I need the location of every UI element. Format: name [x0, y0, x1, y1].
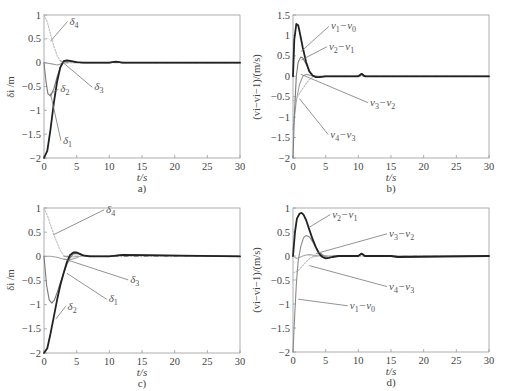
x-tick-label: 30: [484, 161, 495, 172]
panel-label: b): [386, 182, 396, 195]
annotation-leader: [300, 99, 329, 135]
y-axis-label: (vi−vi−1)/(m/s): [251, 54, 263, 120]
annotation-leader: [51, 22, 68, 42]
series-annotation: v2−v1: [329, 40, 354, 55]
y-axis-label: δi /m: [5, 269, 16, 291]
x-tick-label: 20: [169, 161, 180, 172]
y-tick-label: −1.5: [22, 323, 41, 334]
series-line-1: [44, 253, 240, 354]
y-tick-label: −1: [30, 299, 41, 310]
y-tick-label: −2: [30, 153, 41, 164]
y-tick-label: 0: [285, 71, 290, 82]
y-tick-label: 1: [36, 203, 41, 214]
annotation-leader: [309, 266, 387, 287]
series-annotation: δ3: [94, 80, 103, 95]
y-tick-label: −0.5: [271, 91, 290, 102]
y-tick-label: 1.5: [277, 10, 290, 21]
x-tick-label: 30: [235, 161, 246, 172]
y-tick-label: −2: [279, 153, 290, 164]
x-tick-label: 20: [418, 355, 429, 366]
x-tick-label: 0: [41, 356, 46, 367]
panel-a: 051015202530−2−1.5−1−0.500.51t/sa)δi /mδ…: [5, 10, 245, 196]
y-tick-label: −0.5: [22, 275, 41, 286]
panel-d: 051015202530−2−1.5−1−0.500.51t/sd)(vi−vi…: [251, 203, 494, 390]
y-tick-label: −0.5: [271, 275, 290, 286]
annotation-leader: [301, 47, 326, 60]
x-tick-label: 10: [353, 161, 364, 172]
x-tick-label: 5: [323, 355, 328, 366]
annotation-leader: [64, 259, 129, 280]
axes-frame: [293, 15, 489, 158]
panel-label: d): [386, 376, 396, 389]
x-tick-label: 5: [74, 161, 79, 172]
y-tick-label: −0.5: [22, 81, 41, 92]
x-tick-label: 25: [202, 161, 213, 172]
figure-canvas: 051015202530−2−1.5−1−0.500.51t/sa)δi /mδ…: [0, 0, 505, 391]
y-tick-label: −1: [279, 112, 290, 123]
y-tick-label: −2: [30, 348, 41, 359]
series-annotation: v1−v0: [331, 19, 356, 34]
annotation-leader: [67, 273, 107, 299]
y-tick-label: 0: [285, 251, 290, 262]
panel-label: c): [138, 377, 147, 390]
x-tick-label: 0: [290, 161, 295, 172]
y-tick-label: 0.5: [277, 227, 290, 238]
panel-c: 051015202530−2−1.5−1−0.500.51t/sc)δi /mδ…: [5, 203, 245, 391]
series-annotation: δ4: [69, 15, 78, 30]
x-tick-label: 0: [41, 161, 46, 172]
x-tick-label: 5: [74, 356, 79, 367]
series-line-2: [44, 61, 240, 96]
x-tick-label: 10: [353, 355, 364, 366]
y-tick-label: 0.5: [28, 33, 41, 44]
y-tick-label: 0.5: [277, 50, 290, 61]
annotation-leader: [309, 215, 330, 228]
panel-b: 051015202530−2−1.5−1−0.500.511.5t/sb)(vi…: [251, 10, 494, 196]
panel-label: a): [138, 182, 147, 195]
y-tick-label: 0: [36, 57, 41, 68]
y-tick-label: 0.5: [28, 227, 41, 238]
series-annotation: v3−v2: [370, 96, 395, 111]
y-axis-label: (vi−vi−1)/(m/s): [251, 247, 263, 313]
x-tick-label: 20: [169, 356, 180, 367]
series-annotation: δ2: [68, 300, 77, 315]
series-annotation: v4−v3: [330, 128, 355, 143]
x-tick-label: 20: [418, 161, 429, 172]
y-tick-label: 1: [36, 10, 41, 21]
axes-frame: [44, 208, 240, 353]
series-annotation: δ4: [106, 203, 115, 218]
y-tick-label: −2: [279, 347, 290, 358]
series-annotation: δ3: [130, 273, 139, 288]
series-annotation: v2−v1: [332, 208, 357, 223]
x-tick-label: 30: [484, 355, 495, 366]
annotation-leader: [51, 89, 59, 93]
series-annotation: δ2: [60, 82, 69, 97]
y-tick-label: −1: [30, 105, 41, 116]
annotation-leader: [298, 299, 348, 306]
annotation-leader: [316, 234, 387, 254]
series-annotation: δ1: [63, 134, 72, 149]
annotation-leader: [301, 74, 368, 102]
y-tick-label: 1: [285, 203, 290, 214]
x-tick-label: 10: [104, 356, 115, 367]
y-tick-label: 0: [36, 251, 41, 262]
series-annotation: v1−v0: [350, 299, 375, 314]
x-tick-label: 10: [104, 161, 115, 172]
y-tick-label: −1: [279, 299, 290, 310]
y-tick-label: 1: [285, 30, 290, 41]
series-annotation: v4−v3: [389, 280, 414, 295]
y-tick-label: −1.5: [22, 129, 41, 140]
series-annotation: δ1: [109, 292, 118, 307]
x-tick-label: 25: [451, 355, 462, 366]
x-tick-label: 0: [290, 355, 295, 366]
annotation-leader: [54, 210, 104, 235]
x-tick-label: 25: [451, 161, 462, 172]
annotation-leader: [56, 307, 66, 320]
y-axis-label: δi /m: [5, 76, 16, 98]
axes-frame: [44, 15, 240, 158]
x-tick-label: 30: [235, 356, 246, 367]
series-line-2: [44, 253, 240, 303]
series-line-v1v0: [293, 235, 489, 352]
y-tick-label: −1.5: [271, 323, 290, 334]
y-tick-label: −1.5: [271, 132, 290, 143]
series-line-v4v3: [293, 256, 489, 273]
